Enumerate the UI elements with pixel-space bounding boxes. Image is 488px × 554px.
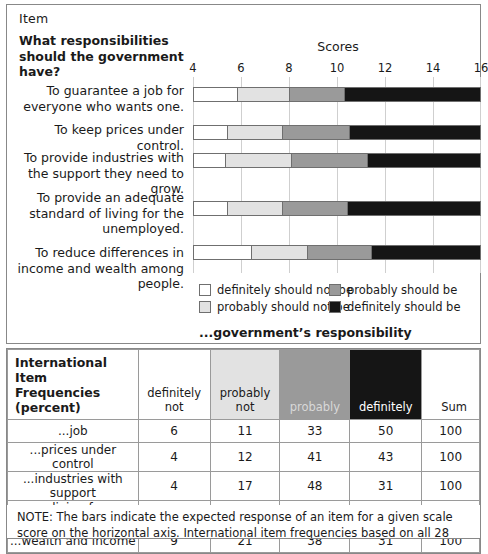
legend-swatch-definitely_not — [199, 284, 211, 296]
chart-legend: definitely should not beprobably should … — [199, 281, 479, 315]
bar-segment-probably-should-not-be — [251, 245, 307, 260]
table-header-title: International Item Frequencies (percent) — [8, 350, 139, 420]
bar-label-5: To reduce differences in income and weal… — [6, 245, 184, 292]
stacked-bar — [193, 125, 481, 140]
bar-segment-probably-should-be — [282, 125, 349, 140]
bar-segment-definitely-should-be — [347, 201, 481, 216]
gridline-16 — [480, 77, 481, 273]
table-cell-value-2: 17 — [210, 472, 280, 501]
bar-segment-definitely-should-be — [349, 125, 481, 140]
table-row: ...prices under control4124143100 — [8, 443, 480, 472]
gridline-8 — [289, 77, 290, 273]
bar-segment-definitely-should-be — [371, 245, 481, 260]
legend-swatch-definitely — [329, 301, 341, 313]
legend-swatch-probably — [329, 284, 341, 296]
table-cell-value-3: 41 — [280, 443, 350, 472]
x-tick-16: 16 — [474, 61, 488, 75]
chart-panel: Item What responsibilities should the go… — [6, 4, 481, 344]
bar-chart-plot — [193, 77, 481, 273]
bar-label-2: To keep prices under control. — [6, 122, 184, 153]
table-cell-value-4: 50 — [350, 420, 422, 443]
table-cell-row-name: ...job — [8, 420, 139, 443]
x-axis-tick-labels: 46810121416 — [193, 61, 481, 77]
table-cell-value-1: 4 — [138, 443, 210, 472]
table-cell-sum: 100 — [422, 472, 480, 501]
legend-item-probably: probably should be — [329, 283, 479, 297]
legend-caption: ...government’s responsibility — [199, 325, 412, 340]
table-header: International Item Frequencies (percent)… — [8, 350, 480, 420]
table-cell-value-1: 4 — [138, 472, 210, 501]
gridline-4 — [193, 77, 194, 273]
gridline-14 — [433, 77, 434, 273]
table-cell-sum: 100 — [422, 443, 480, 472]
bar-segment-probably-should-be — [282, 201, 347, 216]
bar-segment-probably-should-not-be — [227, 201, 282, 216]
legend-label: probably should be — [347, 283, 457, 297]
x-tick-6: 6 — [237, 61, 244, 75]
item-header: Item — [19, 11, 48, 26]
bar-segment-definitely-should-not-be — [193, 153, 225, 168]
question-text: What responsibilities should the governm… — [19, 33, 199, 80]
table-cell-row-name: ...industries with support — [8, 472, 139, 501]
table-cell-value-1: 6 — [138, 420, 210, 443]
table-header-sum: Sum — [422, 350, 480, 420]
gridline-6 — [241, 77, 242, 273]
table-cell-value-4: 31 — [350, 472, 422, 501]
header-line1: definitely — [146, 387, 203, 401]
table-cell-value-2: 11 — [210, 420, 280, 443]
bar-segment-probably-should-not-be — [225, 153, 291, 168]
stacked-bar — [193, 153, 481, 168]
x-tick-14: 14 — [426, 61, 441, 75]
bar-segment-definitely-should-not-be — [193, 245, 251, 260]
header-line2: not — [218, 401, 273, 415]
bar-segment-definitely-should-not-be — [193, 201, 227, 216]
bar-label-4: To provide an adequate standard of livin… — [6, 190, 184, 237]
table-header-probably-not: probably not — [210, 350, 280, 420]
gridline-10 — [337, 77, 338, 273]
table-header-title-line2: Frequencies (percent) — [15, 385, 131, 415]
bar-segment-probably-should-be — [291, 153, 367, 168]
x-tick-12: 12 — [378, 61, 393, 75]
bar-segment-definitely-should-be — [367, 153, 481, 168]
scores-axis-title: Scores — [193, 39, 483, 54]
table-header-title-line1: International Item — [15, 355, 131, 385]
x-tick-10: 10 — [330, 61, 345, 75]
x-tick-4: 4 — [189, 61, 196, 75]
header-line1: probably — [287, 401, 342, 415]
legend-label: definitely should be — [347, 300, 460, 314]
table-header-probably: probably — [280, 350, 350, 420]
legend-swatch-probably_not — [199, 301, 211, 313]
legend-item-probably_not: probably should not be — [199, 300, 329, 314]
header-line2: not — [146, 401, 203, 415]
figure-note: NOTE: The bars indicate the expected res… — [6, 505, 481, 539]
table-cell-value-4: 43 — [350, 443, 422, 472]
stacked-bar — [193, 201, 481, 216]
table-cell-value-2: 12 — [210, 443, 280, 472]
bar-segment-probably-should-be — [289, 87, 344, 102]
stacked-bar — [193, 245, 481, 260]
bar-segment-definitely-should-be — [344, 87, 481, 102]
table-header-row: International Item Frequencies (percent)… — [8, 350, 480, 420]
legend-item-definitely_not: definitely should not be — [199, 283, 329, 297]
stacked-bar — [193, 87, 481, 102]
table-header-definitely-not: definitely not — [138, 350, 210, 420]
header-line1: definitely — [357, 401, 414, 415]
bar-segment-probably-should-not-be — [227, 125, 282, 140]
table-row: ...job6113350100 — [8, 420, 480, 443]
bar-segment-definitely-should-not-be — [193, 87, 237, 102]
bar-label-1: To guarantee a job for everyone who want… — [6, 83, 184, 114]
bar-segment-probably-should-not-be — [237, 87, 289, 102]
x-tick-8: 8 — [285, 61, 292, 75]
table-cell-row-name: ...prices under control — [8, 443, 139, 472]
bar-segment-probably-should-be — [307, 245, 371, 260]
table-cell-value-3: 48 — [280, 472, 350, 501]
legend-item-definitely: definitely should be — [329, 300, 479, 314]
gridline-12 — [385, 77, 386, 273]
table-row: ...industries with support4174831100 — [8, 472, 480, 501]
bar-segment-definitely-should-not-be — [193, 125, 227, 140]
header-line1: probably — [218, 387, 273, 401]
table-cell-sum: 100 — [422, 420, 480, 443]
table-cell-value-3: 33 — [280, 420, 350, 443]
table-header-definitely: definitely — [350, 350, 422, 420]
